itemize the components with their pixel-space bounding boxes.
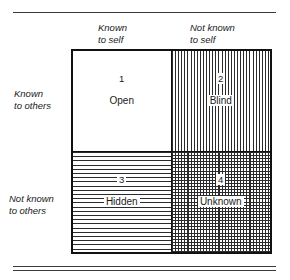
bottom-divider-rule-upper [13, 266, 276, 267]
quadrant-unknown-label: Unknown [197, 196, 245, 208]
quadrant-open-label: Open [107, 95, 137, 107]
johari-window-grid: 1 Open 2 Blind 3 Hidden 4 Unknown [71, 49, 272, 254]
quadrant-blind-number: 2 [172, 73, 271, 85]
quadrant-hidden-label: Hidden [103, 196, 141, 208]
quadrant-open-number: 1 [73, 73, 171, 85]
column-header-known-to-self: Known to self [98, 22, 127, 45]
quadrant-hidden-text: 3 Hidden [73, 174, 171, 209]
row-label-known-to-others: Known to others [14, 88, 51, 111]
top-divider-rule [13, 12, 276, 13]
quadrant-unknown-text: 4 Unknown [172, 174, 271, 209]
quadrant-hidden-number: 3 [73, 174, 171, 186]
quadrant-blind-label: Blind [207, 95, 235, 107]
quadrant-unknown: 4 Unknown [172, 152, 271, 253]
quadrant-open: 1 Open [73, 51, 172, 152]
johari-window-figure: Known to self Not known to self Known to… [0, 0, 290, 280]
row-label-not-known-to-others: Not known to others [9, 193, 54, 216]
bottom-divider-rule-lower [13, 270, 276, 271]
quadrant-hidden: 3 Hidden [73, 152, 172, 253]
quadrant-open-text: 1 Open [73, 73, 171, 108]
quadrant-blind-text: 2 Blind [172, 73, 271, 108]
quadrant-unknown-number: 4 [172, 174, 271, 186]
quadrant-blind: 2 Blind [172, 51, 271, 152]
column-header-not-known-to-self: Not known to self [190, 22, 235, 45]
